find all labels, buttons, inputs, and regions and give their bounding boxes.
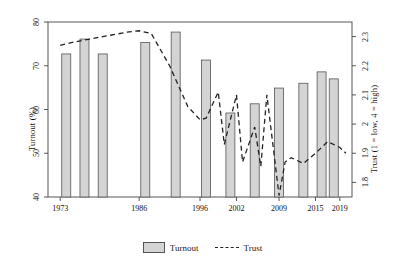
turnout-bars xyxy=(62,32,339,197)
plot-frame xyxy=(44,22,356,201)
legend-dashed-line-icon xyxy=(215,247,239,248)
legend-label-trust: Trust xyxy=(244,243,263,253)
chart-legend: Turnout Trust xyxy=(0,242,405,253)
chart-figure: Turnout (%) Trust (1 = low, 4 = high) 40… xyxy=(0,0,405,257)
legend-item-trust: Trust xyxy=(215,243,263,253)
legend-label-turnout: Turnout xyxy=(170,243,199,253)
plot-area xyxy=(0,0,405,257)
legend-item-turnout: Turnout xyxy=(143,242,199,253)
legend-swatch-icon xyxy=(143,242,165,253)
